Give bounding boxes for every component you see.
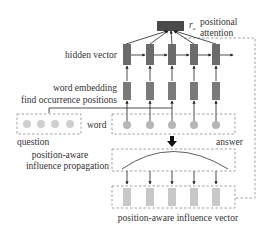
hidden-vector-label: hidden vector: [65, 50, 118, 60]
propagation-label-2: influence propagation: [26, 161, 109, 171]
word-embedding-label: word embedding: [53, 83, 117, 93]
propagation-to-influence-arrows: [127, 171, 216, 184]
influence-vector-label: position-aware influence vector: [118, 213, 239, 223]
hidden-vectors: [123, 44, 220, 65]
embedding-to-hidden-arrows: [127, 66, 216, 81]
find-positions-bracket: [49, 108, 172, 113]
propagation-label-1: position-aware: [32, 150, 88, 160]
bold-down-arrow: [167, 136, 177, 147]
question-words: [23, 120, 74, 128]
diagram-canvas: ra positional attention hidden vector wo…: [0, 0, 271, 234]
positional-attention-label-1: positional: [200, 17, 238, 27]
word-to-embedding-arrows: [127, 101, 216, 121]
find-positions-label: find occurrence positions: [21, 95, 117, 105]
answer-label: answer: [216, 137, 244, 147]
influence-vectors: [123, 188, 220, 206]
propagation-curve: [122, 152, 228, 170]
positional-attention-label-2: attention: [200, 28, 233, 38]
ra-label: ra: [189, 20, 196, 31]
answer-words: [123, 121, 220, 129]
word-label: word: [87, 120, 107, 130]
positional-attention-box: [157, 21, 184, 31]
question-label: question: [17, 137, 49, 147]
word-embeddings: [123, 82, 220, 100]
propagation-box: [112, 149, 235, 171]
